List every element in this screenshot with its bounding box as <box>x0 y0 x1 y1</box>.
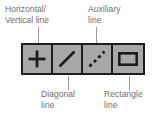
tool-button-rectangle-line[interactable] <box>113 45 143 73</box>
toolbar-callout-figure: Horizontal/ Vertical line Auxiliary line <box>0 0 161 121</box>
dashed-diagonal-line-icon <box>87 49 107 69</box>
tool-button-auxiliary-line[interactable] <box>83 45 113 73</box>
callout-auxiliary-line-text-2: line <box>88 15 121 26</box>
leader-line-diagonal <box>68 76 69 90</box>
callout-horizontal-vertical-line: Horizontal/ Vertical line <box>5 4 49 25</box>
callout-auxiliary-line: Auxiliary line <box>88 4 121 25</box>
callout-diagonal-line: Diagonal line <box>41 89 75 110</box>
callout-rectangle-line: Rectangle line <box>104 89 143 110</box>
callout-rectangle-line-text-2: line <box>104 100 143 111</box>
diagonal-line-icon <box>57 49 77 69</box>
leader-line-rectangle <box>129 76 130 90</box>
tool-button-horizontal-vertical-line[interactable] <box>23 45 53 73</box>
leader-line-horizontal-vertical <box>38 27 39 43</box>
callout-auxiliary-line-text-1: Auxiliary <box>88 4 121 14</box>
callout-rectangle-line-text-1: Rectangle <box>104 89 143 99</box>
line-tools-toolbar <box>21 43 145 75</box>
callout-horizontal-vertical-line-text-2: Vertical line <box>5 15 49 26</box>
callout-horizontal-vertical-line-text-1: Horizontal/ <box>5 4 46 14</box>
callout-diagonal-line-text-2: line <box>41 100 75 111</box>
rectangle-outline-icon <box>117 49 139 69</box>
callout-diagonal-line-text-1: Diagonal <box>41 89 75 99</box>
leader-line-auxiliary <box>96 27 97 43</box>
plus-cross-icon <box>27 49 47 69</box>
tool-button-diagonal-line[interactable] <box>53 45 83 73</box>
